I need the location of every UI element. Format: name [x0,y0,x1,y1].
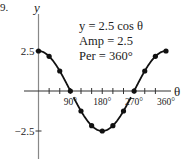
cosine-chart: 9. 90°180°270°360°2.5−2.5 y θ y = 2.5 co… [0,0,185,159]
data-point [89,123,94,128]
x-tick-label: 360° [157,97,175,107]
data-point [57,68,62,73]
y-axis-label: y [32,0,40,15]
annotation-amplitude: Amp = 2.5 [79,34,133,48]
data-point [153,54,158,59]
y-tick-label: −2.5 [15,125,35,137]
x-axis-label: θ [174,84,180,99]
data-point [132,88,137,93]
data-point [100,128,105,133]
annotation: y = 2.5 cos θ Amp = 2.5 Per = 360° [79,19,143,63]
data-point [121,108,126,113]
data-point [47,54,52,59]
annotation-function: y = 2.5 cos θ [79,19,143,33]
x-tick-label: 90° [64,97,78,107]
annotation-period: Per = 360° [79,49,133,63]
x-tick-label: 270° [125,97,143,107]
figure-label: 9. [0,1,9,13]
data-point [36,48,41,53]
data-point [78,108,83,113]
x-tick-label: 180° [93,97,111,107]
data-point [68,88,73,93]
curve-segment [134,51,166,91]
data-point [142,68,147,73]
data-point [163,48,168,53]
data-point [110,123,115,128]
curve-segment [39,51,71,91]
y-tick-label: 2.5 [21,45,35,57]
